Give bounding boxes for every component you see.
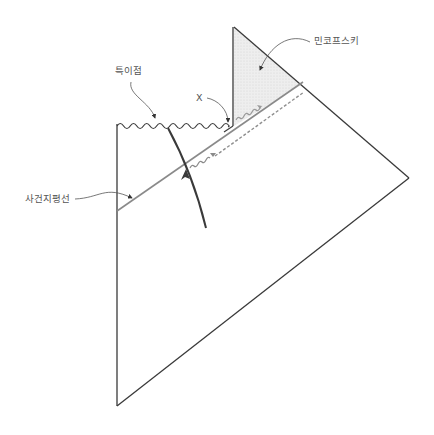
singularity-wavy-line xyxy=(117,124,229,129)
infalling-worldline xyxy=(168,128,206,228)
label-x: X xyxy=(196,93,203,103)
label-event-horizon: 사건지평선 xyxy=(25,194,70,204)
past-null-infinity xyxy=(117,178,409,406)
penrose-diagram xyxy=(0,0,434,435)
photon-arrowhead-interior xyxy=(210,153,216,157)
leader-event-horizon xyxy=(75,192,132,199)
event-horizon-line xyxy=(117,82,303,211)
label-minkowski: 민코프스키 xyxy=(314,36,359,46)
label-singularity: 특이점 xyxy=(115,66,142,76)
leader-singularity xyxy=(131,82,155,118)
leader-x xyxy=(207,98,228,122)
